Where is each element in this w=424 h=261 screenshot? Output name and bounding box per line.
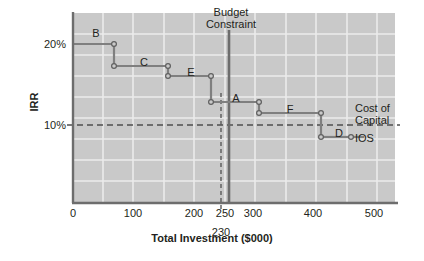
marker-e-end xyxy=(209,74,214,79)
budget-constraint-label-line1: Budget xyxy=(186,6,276,18)
marker-c-end xyxy=(166,64,171,69)
marker-a-end xyxy=(257,100,262,105)
chart-figure: IRR 20% 10% 0 100 200 250 300 400 500 23… xyxy=(0,0,424,261)
point-label-d: D xyxy=(329,127,349,139)
y-axis-title: IRR xyxy=(28,82,40,122)
budget-constraint-label-line2: Constraint xyxy=(186,18,276,30)
y-tick-label-10: 10% xyxy=(32,119,66,131)
point-label-c: C xyxy=(134,56,154,68)
marker-d-end xyxy=(349,135,354,140)
cost-of-capital-label-line2: Capital xyxy=(355,114,424,126)
budget-constraint-label: Budget Constraint xyxy=(186,6,276,30)
marker-b-end xyxy=(112,42,117,47)
x-tick-label-500: 500 xyxy=(354,207,394,219)
x-tick-label-300: 300 xyxy=(233,207,273,219)
x-axis-title: Total Investment ($000) xyxy=(0,232,424,244)
point-label-f: F xyxy=(280,103,300,115)
marker-f-start xyxy=(257,111,262,116)
ios-curve-label: IOS xyxy=(355,132,395,144)
marker-a-start xyxy=(209,100,214,105)
marker-d-start xyxy=(319,135,324,140)
x-tick-label-400: 400 xyxy=(293,207,333,219)
point-label-a: A xyxy=(226,92,246,104)
point-label-e: E xyxy=(181,66,201,78)
x-tick-label-100: 100 xyxy=(113,207,153,219)
cost-of-capital-label-line1: Cost of xyxy=(355,102,424,114)
marker-e-start xyxy=(166,74,171,79)
cost-of-capital-label: Cost of Capital xyxy=(355,102,424,126)
x-tick-label-0: 0 xyxy=(53,207,93,219)
marker-f-end xyxy=(319,111,324,116)
marker-c-start xyxy=(112,64,117,69)
y-tick-label-20: 20% xyxy=(32,38,66,50)
point-label-b: B xyxy=(86,27,106,39)
